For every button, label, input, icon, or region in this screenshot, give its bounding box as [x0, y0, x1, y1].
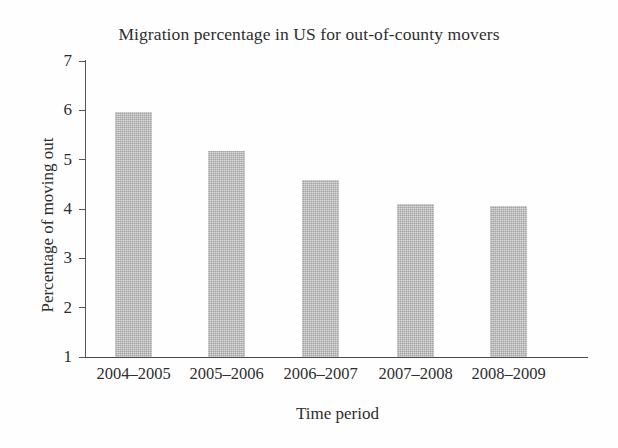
bar	[397, 204, 434, 357]
x-axis-title: Time period	[85, 404, 590, 424]
chart-title: Migration percentage in US for out-of-co…	[0, 24, 618, 45]
y-tick-label: 1	[48, 348, 72, 365]
bar	[490, 206, 527, 357]
y-tick-label: 7	[48, 52, 72, 69]
x-tick-label: 2007–2008	[366, 364, 466, 384]
x-tick-label: 2004–2005	[84, 364, 184, 384]
y-tick-label: 5	[48, 151, 72, 168]
y-tick-label: 3	[48, 249, 72, 266]
y-axis-title: Percentage of moving out	[38, 85, 58, 365]
x-tick-label: 2008–2009	[459, 364, 559, 384]
bar	[115, 112, 152, 357]
y-tick-label: 4	[48, 200, 72, 217]
y-tick-label: 6	[48, 101, 72, 118]
plot-area	[85, 61, 588, 357]
y-tick-label: 2	[48, 299, 72, 316]
chart-figure: Migration percentage in US for out-of-co…	[0, 0, 618, 448]
x-axis-line	[85, 357, 588, 358]
bar	[208, 151, 245, 357]
x-tick-label: 2005–2006	[177, 364, 277, 384]
x-tick-label: 2006–2007	[271, 364, 371, 384]
bar	[302, 180, 339, 357]
